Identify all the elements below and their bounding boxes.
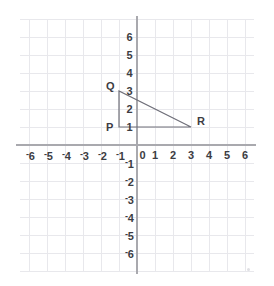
negative-sign: -: [62, 149, 65, 159]
negative-sign: -: [125, 193, 128, 203]
negative-sign: -: [125, 175, 128, 185]
negative-sign: -: [98, 149, 101, 159]
y-tick-label--6: -6: [119, 248, 141, 260]
y-tick-label--3: -3: [119, 194, 141, 206]
negative-sign: -: [26, 149, 29, 159]
negative-sign: -: [44, 149, 47, 159]
y-tick-label-4: 4: [119, 68, 141, 79]
negative-sign: -: [125, 229, 128, 239]
negative-sign: -: [125, 211, 128, 221]
vertex-label-R: R: [197, 116, 205, 127]
x-tick-label-6: 6: [234, 150, 256, 161]
vertex-label-Q: Q: [106, 81, 115, 92]
y-tick-label-1: 1: [119, 122, 141, 133]
negative-sign: -: [80, 149, 83, 159]
y-tick-label-2: 2: [119, 104, 141, 115]
negative-sign: -: [116, 149, 119, 159]
image-speck: [247, 268, 250, 271]
y-tick-label--5: -5: [119, 230, 141, 242]
y-tick-label-6: 6: [119, 32, 141, 43]
negative-sign: -: [125, 247, 128, 257]
y-tick-label--2: -2: [119, 176, 141, 188]
negative-sign: -: [125, 157, 128, 167]
y-tick-label--1: -1: [119, 158, 141, 170]
coordinate-plane: -6-5-4-3-2-10123456654321-1-2-3-4-5-6 QP…: [0, 0, 274, 286]
y-tick-label-3: 3: [119, 86, 141, 97]
vertex-label-P: P: [106, 122, 113, 133]
y-tick-label--4: -4: [119, 212, 141, 224]
y-tick-label-5: 5: [119, 50, 141, 61]
coordinate-plane-screenshot: -6-5-4-3-2-10123456654321-1-2-3-4-5-6 QP…: [0, 0, 274, 286]
